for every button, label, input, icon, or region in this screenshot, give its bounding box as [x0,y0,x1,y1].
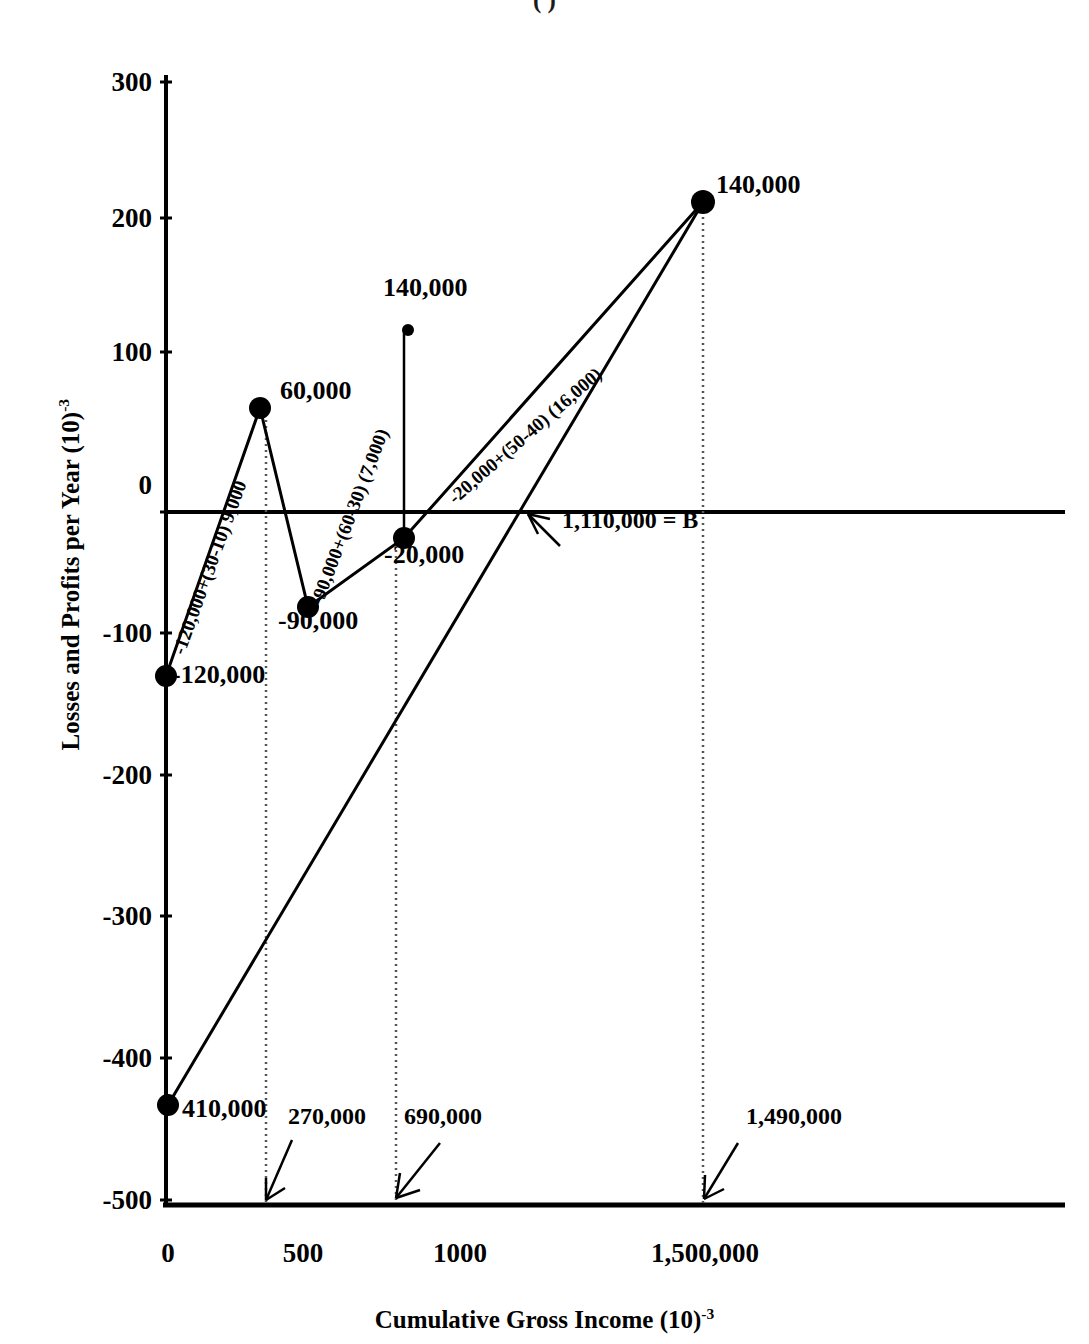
marker-140000 [691,190,715,214]
y-tick-300: 300 [92,69,152,96]
y-tick-200: 200 [92,205,152,232]
plot-canvas [0,0,1089,1344]
point-label-60000: 60,000 [280,378,352,404]
arrow-1490000 [704,1143,738,1199]
annotation-breakeven: 1,110,000 = B [562,508,698,532]
arrow-270000 [266,1140,292,1200]
y-axis-title-base: Losses and Profits per Year (10) [57,412,84,751]
y-tick-minus300: -300 [72,903,152,930]
point-label-410000: 410,000 [182,1096,267,1122]
point-label-minus20000: -20,000 [384,542,464,568]
droplines [266,205,703,1203]
breakeven-arrow [528,514,560,546]
marker-410000 [157,1094,179,1116]
point-label-minus90000: -90,000 [278,608,358,634]
x-tick-1500000: 1,500,000 [610,1240,800,1267]
marker-60000 [249,397,271,419]
annotation-270000: 270,000 [288,1104,366,1128]
x-tick-0: 0 [138,1240,198,1267]
annotation-690000: 690,000 [404,1104,482,1128]
y-tick-minus400: -400 [72,1045,152,1072]
point-label-minus120000: -120,000 [172,662,265,688]
y-tick-100: 100 [92,339,152,366]
point-label-120000: 140,000 [383,275,468,301]
x-tick-1000: 1000 [410,1240,510,1267]
point-label-140000: 140,000 [716,172,801,198]
x-axis-title-exponent: -3 [701,1305,714,1322]
cumulative-line [168,204,702,1105]
x-axis-title: Cumulative Gross Income (10)-3 [0,1305,1089,1334]
x-axis-title-base: Cumulative Gross Income (10) [375,1306,702,1333]
y-axis-title-exponent: -3 [55,399,72,412]
y-tick-0: 0 [92,472,152,499]
chart-figure: ( ) [0,0,1089,1344]
x-tick-500: 500 [258,1240,348,1267]
y-tick-minus500: -500 [72,1187,152,1214]
annotation-1490000: 1,490,000 [746,1104,842,1128]
dropline-arrows [266,1140,738,1200]
arrow-690000 [396,1143,440,1198]
y-axis-title: Losses and Profits per Year (10)-3 [55,360,84,790]
marker-120000 [402,324,414,336]
